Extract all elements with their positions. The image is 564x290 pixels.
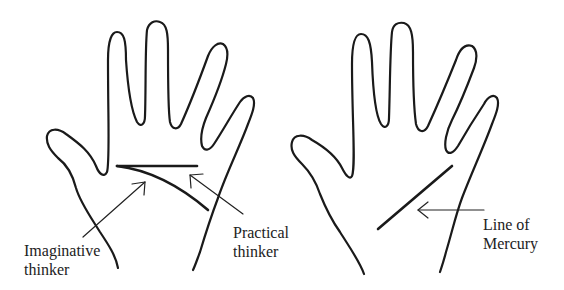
imaginative-arrow-icon (83, 182, 145, 237)
right-hand (291, 23, 498, 274)
line-of-mercury (378, 166, 452, 229)
imaginative-thinker-label: Imaginative thinker (24, 241, 100, 279)
line-of-mercury-label: Line of Mercury (483, 215, 538, 253)
practical-arrow-icon (190, 174, 243, 214)
right-hand-outline (291, 23, 498, 274)
mercury-arrow-icon (418, 202, 484, 218)
left-hand-outline (47, 21, 254, 270)
imaginative-thinker-line (117, 166, 208, 210)
left-hand (47, 21, 254, 270)
practical-thinker-label: Practical thinker (233, 223, 289, 261)
